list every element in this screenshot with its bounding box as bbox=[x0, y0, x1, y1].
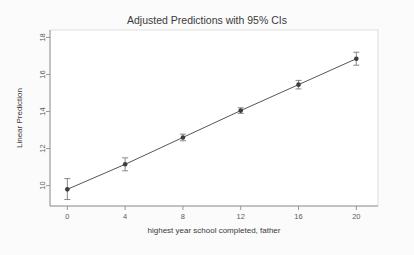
y-tick-label: 10 bbox=[38, 181, 47, 189]
y-tick-label: 16 bbox=[38, 70, 47, 78]
data-point-marker bbox=[65, 187, 70, 192]
adjusted-predictions-chart: Adjusted Predictions with 95% CIs 101214… bbox=[0, 0, 414, 255]
data-point-marker bbox=[181, 135, 186, 140]
x-axis-title: highest year school completed, father bbox=[148, 226, 281, 235]
data-point-marker bbox=[296, 82, 301, 87]
y-axis-title: Linear Prediction bbox=[15, 88, 24, 148]
y-tick-label: 18 bbox=[38, 33, 47, 41]
y-tick-label: 14 bbox=[38, 107, 47, 115]
chart-title: Adjusted Predictions with 95% CIs bbox=[127, 14, 287, 26]
data-point-marker bbox=[354, 56, 359, 61]
data-point-marker bbox=[238, 108, 243, 113]
x-tick-label: 20 bbox=[352, 212, 360, 221]
data-point-marker bbox=[123, 162, 128, 167]
x-tick-label: 12 bbox=[237, 212, 245, 221]
x-tick-label: 8 bbox=[181, 212, 185, 221]
x-tick-label: 4 bbox=[123, 212, 127, 221]
y-tick-label: 12 bbox=[38, 144, 47, 152]
x-tick-label: 16 bbox=[294, 212, 302, 221]
chart-figure: Adjusted Predictions with 95% CIs 101214… bbox=[0, 0, 414, 255]
x-tick-label: 0 bbox=[65, 212, 69, 221]
plot-background bbox=[50, 30, 378, 206]
